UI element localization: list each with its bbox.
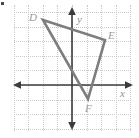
y-axis-label: y (77, 14, 82, 25)
vertex-label-f: F (85, 103, 92, 114)
coordinate-plane-figure: D E F x y (0, 0, 139, 138)
triangle-def (0, 0, 139, 138)
vertex-label-d: D (29, 12, 37, 23)
x-axis-label: x (120, 88, 125, 99)
triangle-outline (43, 20, 105, 99)
vertex-label-e: E (108, 30, 115, 41)
